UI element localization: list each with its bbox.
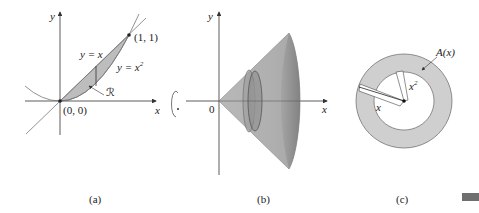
parabola-label-base: y = x [116, 61, 140, 73]
caption-b: (b) [257, 193, 270, 206]
washer-center [402, 99, 406, 103]
origin-point [58, 99, 62, 103]
intersection-label: (1, 1) [134, 31, 158, 44]
caption-c: (c) [396, 193, 409, 206]
region-label: ℛ [106, 86, 115, 98]
parabola-label-sup: 2 [140, 60, 144, 68]
region-pointer [89, 86, 104, 95]
parabola-label: y = x2 [116, 60, 144, 73]
corner-marker-bar [462, 193, 479, 201]
rotation-icon [172, 91, 180, 117]
inner-radius-strip [396, 71, 408, 101]
y-axis-label-a: y [49, 10, 55, 22]
figure-canvas: y x (0, 0) (1, 1) y = x y = x2 ℛ [0, 0, 479, 213]
panel-b: y x 0 [172, 10, 328, 175]
origin-label-b: 0 [209, 103, 215, 115]
panel-a: y x (0, 0) (1, 1) y = x y = x2 ℛ [25, 10, 160, 135]
panel-c: A(x) x x2 [356, 46, 455, 148]
area-label: A(x) [435, 46, 455, 59]
caption-a: (a) [89, 193, 102, 206]
line-label: y = x [79, 48, 103, 60]
outer-radius-label: x [375, 101, 381, 113]
x-axis-label-b: x [321, 103, 327, 115]
origin-label: (0, 0) [63, 104, 87, 117]
inner-radius-label-sup: 2 [414, 79, 418, 87]
y-axis-label-b: y [207, 10, 213, 22]
intersection-point [127, 33, 131, 37]
inner-radius-label: x2 [408, 79, 418, 92]
x-axis-label-a: x [154, 104, 160, 116]
